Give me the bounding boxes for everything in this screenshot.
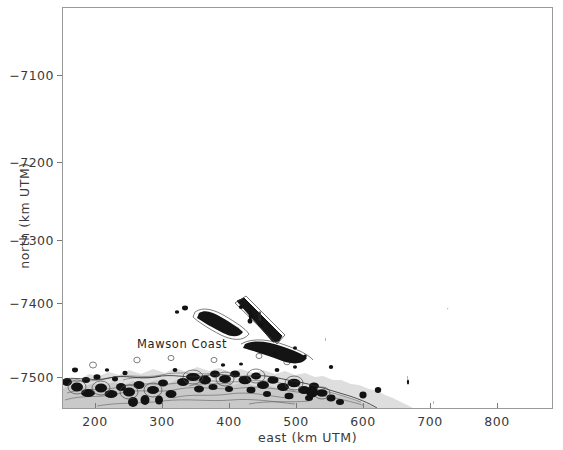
- figure-canvas: 200 300 400 500 600 700 800 −7100 −7200 …: [0, 0, 563, 450]
- x-tick-700: [430, 403, 431, 408]
- annotation-mawson-coast: Mawson Coast: [137, 337, 227, 351]
- x-tick-label-4: 600: [350, 414, 375, 429]
- plot-frame: [62, 7, 553, 409]
- x-tick-label-0: 200: [82, 414, 107, 429]
- x-tick-800: [497, 403, 498, 408]
- x-tick-label-5: 700: [417, 414, 442, 429]
- y-tick--7200: [57, 162, 62, 163]
- y-tick-label-4: −7500: [9, 370, 54, 385]
- y-tick--7100: [57, 75, 62, 76]
- y-tick-label-0: −7100: [9, 68, 54, 83]
- x-tick-label-1: 300: [149, 414, 174, 429]
- x-tick-label-2: 400: [216, 414, 241, 429]
- lower-ridge: [241, 340, 313, 364]
- x-tick-600: [363, 403, 364, 408]
- x-tick-400: [229, 403, 230, 408]
- y-tick--7400: [57, 303, 62, 304]
- x-tick-300: [162, 403, 163, 408]
- x-tick-label-3: 500: [283, 414, 308, 429]
- y-tick--7300: [57, 240, 62, 241]
- y-axis-title: north (km UTM): [17, 136, 32, 296]
- x-tick-500: [296, 403, 297, 408]
- y-tick--7500: [57, 377, 62, 378]
- secondary-ridge: [175, 306, 249, 340]
- x-tick-200: [95, 403, 96, 408]
- x-axis-title: east (km UTM): [62, 430, 553, 445]
- x-tick-label-6: 800: [484, 414, 509, 429]
- y-tick-label-3: −7400: [9, 296, 54, 311]
